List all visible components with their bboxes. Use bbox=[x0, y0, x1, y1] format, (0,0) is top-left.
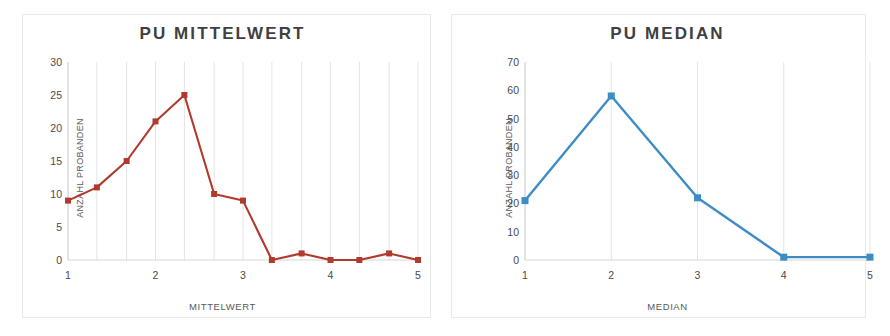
data-point-marker bbox=[522, 197, 529, 204]
y-tick-label: 0 bbox=[513, 254, 519, 266]
data-point-marker bbox=[356, 257, 362, 263]
chart-title: PU MEDIAN bbox=[445, 24, 890, 44]
x-tick-label: 2 bbox=[153, 269, 159, 281]
x-tick-label: 3 bbox=[240, 269, 246, 281]
data-point-marker bbox=[415, 257, 421, 263]
y-tick-label: 50 bbox=[507, 113, 519, 125]
x-tick-label: 1 bbox=[65, 269, 71, 281]
x-axis-label: MEDIAN bbox=[445, 301, 890, 312]
plot-area bbox=[68, 62, 418, 260]
y-tick-label: 5 bbox=[56, 221, 62, 233]
x-tick-label: 4 bbox=[781, 269, 787, 281]
y-tick-label: 70 bbox=[507, 56, 519, 68]
y-tick-label: 15 bbox=[50, 155, 62, 167]
plot-area bbox=[525, 62, 870, 260]
x-tick-label: 1 bbox=[522, 269, 528, 281]
y-tick-label: 0 bbox=[56, 254, 62, 266]
data-point-marker bbox=[694, 194, 701, 201]
x-tick-label: 2 bbox=[608, 269, 614, 281]
plot-svg bbox=[68, 62, 418, 260]
data-point-marker bbox=[299, 250, 305, 256]
y-tick-label: 20 bbox=[507, 197, 519, 209]
y-tick-label: 60 bbox=[507, 84, 519, 96]
x-tick-label: 5 bbox=[867, 269, 873, 281]
x-tick-label: 4 bbox=[328, 269, 334, 281]
y-tick-label: 30 bbox=[507, 169, 519, 181]
y-tick-label: 30 bbox=[50, 56, 62, 68]
data-point-marker bbox=[124, 158, 130, 164]
chart-title: PU MITTELWERT bbox=[0, 24, 445, 44]
data-point-marker bbox=[94, 184, 100, 190]
data-point-marker bbox=[240, 198, 246, 204]
chart-panel-pu-median: PU MEDIAN ANZAHL PROBANDEN MEDIAN 010203… bbox=[445, 0, 890, 336]
data-point-marker bbox=[211, 191, 217, 197]
y-tick-label: 25 bbox=[50, 89, 62, 101]
y-tick-label: 40 bbox=[507, 141, 519, 153]
data-point-marker bbox=[780, 254, 787, 261]
data-point-marker bbox=[867, 254, 874, 261]
x-axis-ticks: 12345 bbox=[525, 269, 870, 285]
x-axis-label: MITTELWERT bbox=[0, 301, 445, 312]
data-point-marker bbox=[328, 257, 334, 263]
chart-panel-pu-mittelwert: PU MITTELWERT ANZAHL PROBANDEN MITTELWER… bbox=[0, 0, 445, 336]
y-tick-label: 20 bbox=[50, 122, 62, 134]
data-point-marker bbox=[269, 257, 275, 263]
y-axis-ticks: 051015202530 bbox=[36, 62, 62, 260]
data-point-marker bbox=[153, 118, 159, 124]
y-axis-ticks: 010203040506070 bbox=[493, 62, 519, 260]
chart-figure: PU MITTELWERT ANZAHL PROBANDEN MITTELWER… bbox=[0, 0, 890, 336]
x-axis-ticks: 12345 bbox=[68, 269, 418, 285]
y-tick-label: 10 bbox=[50, 188, 62, 200]
y-tick-label: 10 bbox=[507, 226, 519, 238]
data-point-marker bbox=[608, 92, 615, 99]
data-point-marker bbox=[65, 198, 71, 204]
data-point-marker bbox=[386, 250, 392, 256]
data-point-marker bbox=[181, 92, 187, 98]
x-tick-label: 5 bbox=[415, 269, 421, 281]
plot-svg bbox=[525, 62, 870, 260]
x-tick-label: 3 bbox=[695, 269, 701, 281]
